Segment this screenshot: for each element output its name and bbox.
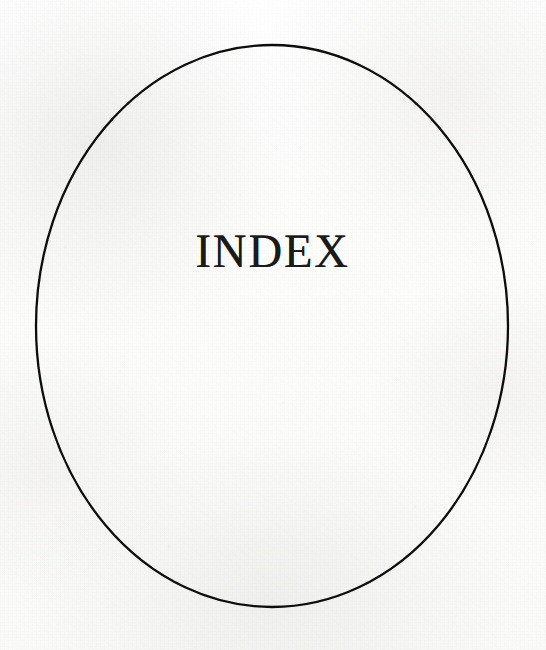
paper-grain-texture (0, 0, 546, 650)
page-title-container: INDEX (0, 228, 546, 276)
index-divider-page: INDEX (0, 0, 546, 650)
paper-background (0, 0, 546, 650)
paper-speckle-texture (0, 0, 546, 650)
ellipse-frame-svg (0, 0, 546, 650)
page-title: INDEX (196, 228, 351, 276)
ellipse-frame (36, 45, 508, 607)
